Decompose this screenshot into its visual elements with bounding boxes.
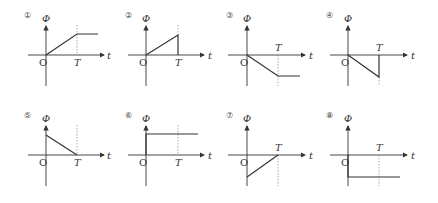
graph-option-3: ③ Φ t O T [226,11,314,86]
svg-text:O: O [139,157,147,168]
svg-text:T: T [175,57,183,68]
svg-text:Φ: Φ [243,13,251,24]
graph-option-4: ④ Φ t O T [326,11,416,86]
svg-text:t: t [107,50,112,61]
svg-text:t: t [411,150,416,161]
flux-graphs-diagram: ① Φ t O T ② Φ t O T ③ Φ t O T ④ [0,0,438,203]
option-label: ⑤ [24,111,31,120]
svg-text:O: O [341,57,349,68]
graph-option-6: ⑥ Φ t O T [125,111,213,186]
svg-text:O: O [39,157,47,168]
svg-text:T: T [74,157,82,168]
svg-text:Φ: Φ [42,113,50,124]
svg-text:t: t [107,150,112,161]
option-label: ⑥ [125,111,132,120]
svg-text:Φ: Φ [42,13,50,24]
svg-text:Φ: Φ [142,113,150,124]
svg-text:O: O [240,157,248,168]
svg-text:Φ: Φ [344,13,352,24]
svg-text:T: T [74,57,82,68]
svg-text:T: T [175,157,183,168]
option-label: ③ [226,11,233,20]
svg-text:t: t [309,50,314,61]
svg-text:T: T [275,42,283,53]
graph-option-5: ⑤ Φ t O T [24,111,112,186]
graph-option-2: ② Φ t O T [125,11,213,86]
svg-text:t: t [208,150,213,161]
svg-text:T: T [275,142,283,153]
svg-text:O: O [341,157,349,168]
svg-text:t: t [309,150,314,161]
option-label: ① [24,11,31,20]
svg-text:O: O [240,57,248,68]
option-label: ⑧ [326,111,333,120]
option-label: ② [125,11,132,20]
graph-option-7: ⑦ Φ t O T [226,111,314,186]
svg-text:Φ: Φ [243,113,251,124]
graph-option-1: ① Φ t O T [24,11,112,86]
svg-text:t: t [208,50,213,61]
svg-text:O: O [139,57,147,68]
svg-text:T: T [376,42,384,53]
graph-option-8: ⑧ Φ t O T [326,111,416,186]
svg-text:t: t [411,50,416,61]
svg-text:T: T [376,142,384,153]
option-label: ⑦ [226,111,233,120]
svg-text:Φ: Φ [344,113,352,124]
option-label: ④ [326,11,333,20]
svg-text:Φ: Φ [142,13,150,24]
svg-text:O: O [39,57,47,68]
